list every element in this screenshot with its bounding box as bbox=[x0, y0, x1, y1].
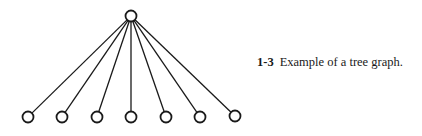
root-node bbox=[126, 11, 137, 22]
tree-edge bbox=[65, 21, 128, 113]
tree-edge bbox=[133, 21, 164, 112]
tree-edge bbox=[99, 21, 129, 112]
figure-number: 1-3 bbox=[257, 55, 274, 69]
leaf-node bbox=[57, 112, 68, 123]
leaf-node bbox=[126, 112, 137, 123]
leaf-node bbox=[92, 112, 103, 123]
leaf-node bbox=[161, 112, 172, 123]
leaf-node bbox=[23, 112, 34, 123]
tree-edge bbox=[134, 21, 197, 113]
leaf-node bbox=[195, 112, 206, 123]
tree-edge bbox=[32, 20, 127, 113]
leaf-node bbox=[230, 111, 241, 122]
caption-text: Example of a tree graph. bbox=[280, 55, 403, 69]
tree-edge bbox=[135, 20, 231, 112]
figure-caption: 1-3Example of a tree graph. bbox=[257, 55, 403, 70]
tree-graph bbox=[0, 0, 260, 136]
